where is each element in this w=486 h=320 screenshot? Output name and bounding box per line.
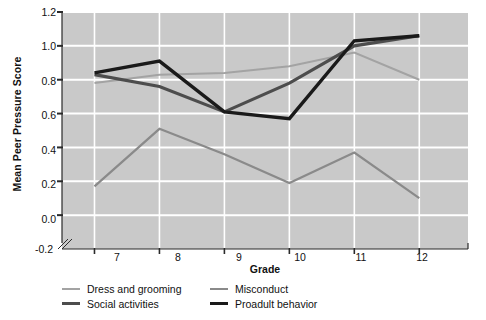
- legend-label: Social activities: [87, 298, 159, 310]
- plot-area: [0, 0, 486, 320]
- legend-swatch-icon: [210, 288, 228, 290]
- legend-column-right: Misconduct Proadult behavior: [210, 281, 317, 311]
- legend-item-misconduct[interactable]: Misconduct: [210, 281, 317, 296]
- legend-item-dress-and-grooming[interactable]: Dress and grooming: [62, 281, 182, 296]
- plot-background: [62, 12, 468, 249]
- legend-swatch-icon: [62, 302, 80, 305]
- legend-label: Proadult behavior: [235, 298, 317, 310]
- chart-figure: Mean Peer Pressure Score Grade 1.2 1.0 0…: [0, 0, 486, 320]
- legend-label: Misconduct: [235, 283, 288, 295]
- legend-item-proadult-behavior[interactable]: Proadult behavior: [210, 296, 317, 311]
- legend-label: Dress and grooming: [87, 283, 182, 295]
- legend-item-social-activities[interactable]: Social activities: [62, 296, 182, 311]
- legend-swatch-icon: [210, 302, 228, 305]
- legend-swatch-icon: [62, 288, 80, 290]
- legend-column-left: Dress and grooming Social activities: [62, 281, 182, 311]
